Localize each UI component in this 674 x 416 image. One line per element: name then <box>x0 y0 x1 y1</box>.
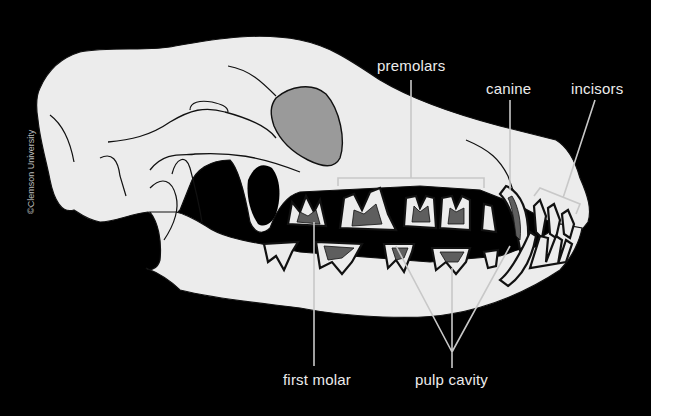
diagram-canvas: premolars canine incisors first molar pu… <box>0 0 651 416</box>
label-first-molar: first molar <box>283 371 351 388</box>
page-margin <box>651 0 674 416</box>
label-canine: canine <box>486 80 531 97</box>
copyright-credit: ©Clemson University <box>26 130 36 214</box>
upper-premolar-1 <box>482 204 496 232</box>
label-pulp-cavity: pulp cavity <box>415 371 488 388</box>
skull-illustration <box>0 0 651 416</box>
label-premolars: premolars <box>377 57 446 74</box>
label-incisors: incisors <box>571 80 623 97</box>
